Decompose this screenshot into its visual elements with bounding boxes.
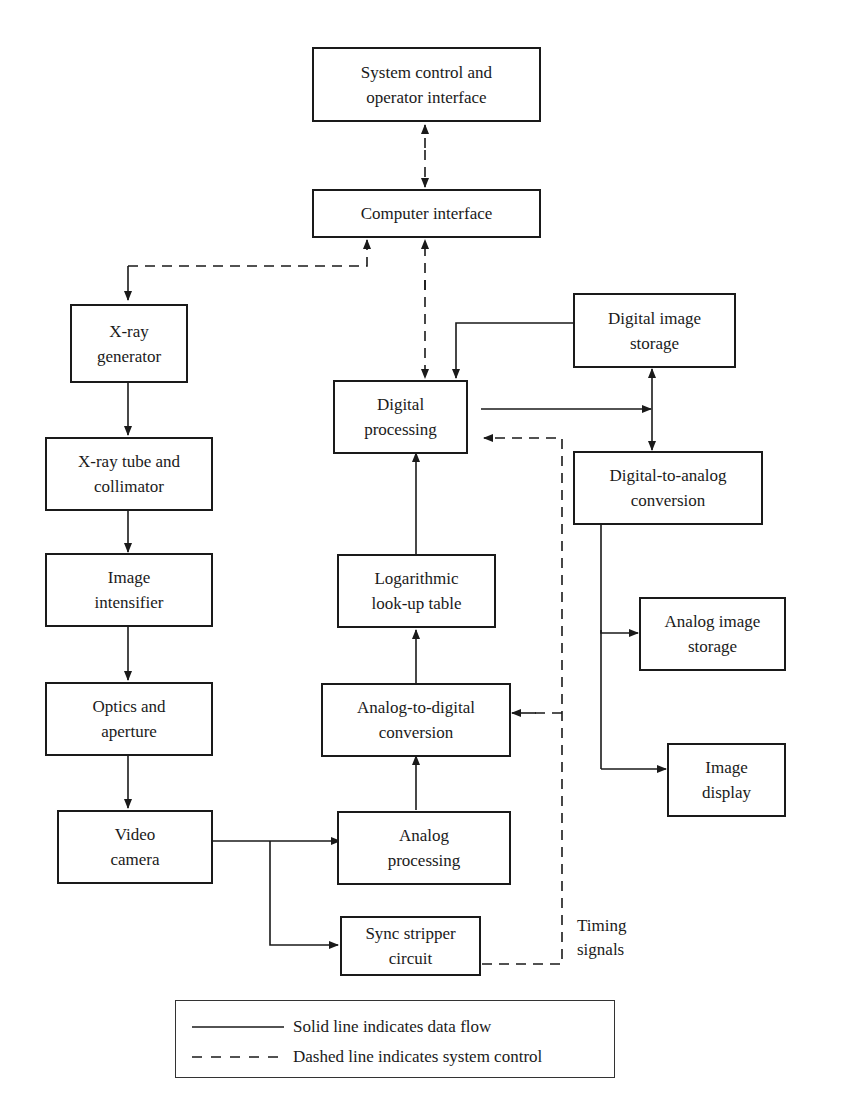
legend: Solid line indicates data flow Dashed li… (175, 1000, 615, 1078)
legend-solid-label: Solid line indicates data flow (293, 1017, 491, 1037)
node-sync-stripper: Sync stripper circuit (340, 916, 481, 976)
legend-dashed-label: Dashed line indicates system control (293, 1047, 542, 1067)
node-image-intensifier: Image intensifier (45, 553, 213, 627)
node-computer-interface: Computer interface (312, 189, 541, 238)
node-digital-storage: Digital image storage (573, 293, 736, 368)
node-image-display: Image display (667, 743, 786, 817)
node-analog-processing: Analog processing (337, 811, 511, 885)
dashed-line-sample-icon (192, 1052, 284, 1062)
node-xray-tube: X-ray tube and collimator (45, 437, 213, 511)
edge-generator-to-computer (128, 240, 367, 266)
node-log-lut: Logarithmic look-up table (337, 554, 496, 628)
node-optics: Optics and aperture (45, 682, 213, 756)
node-video-camera: Video camera (57, 810, 213, 884)
edge-storage-to-processing (456, 323, 575, 378)
node-xray-generator: X-ray generator (70, 304, 188, 383)
solid-line-sample-icon (192, 1022, 284, 1032)
edge-camera-to-sync (270, 841, 338, 945)
timing-signals-label: Timing signals (577, 914, 626, 962)
node-dac: Digital-to-analog conversion (573, 451, 763, 525)
node-analog-storage: Analog image storage (639, 597, 786, 671)
edge-dac-to-analog-storage (601, 524, 638, 633)
node-digital-processing: Digital processing (333, 380, 468, 454)
legend-dashed: Dashed line indicates system control (176, 1045, 542, 1069)
node-adc: Analog-to-digital conversion (321, 683, 511, 757)
node-system-control: System control and operator interface (312, 47, 541, 122)
legend-solid: Solid line indicates data flow (176, 1015, 491, 1039)
